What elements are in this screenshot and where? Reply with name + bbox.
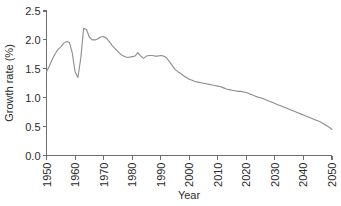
y-tick-label: 1.0 <box>25 92 40 104</box>
x-tick-label: 1950 <box>41 163 53 187</box>
y-tick-label: 2.5 <box>25 5 40 17</box>
growth-rate-line-chart: 0.00.51.01.52.02.5 195019601970198019902… <box>0 0 341 206</box>
x-tick-label: 2010 <box>212 163 224 187</box>
chart-canvas: 0.00.51.01.52.02.5 195019601970198019902… <box>0 0 341 206</box>
y-axis-tick-labels: 0.00.51.01.52.02.5 <box>25 5 40 162</box>
x-tick-label: 2040 <box>297 163 309 187</box>
x-tick-label: 2020 <box>240 163 252 187</box>
y-tick-label: 1.5 <box>25 63 40 75</box>
y-axis-group: 0.00.51.01.52.02.5 <box>25 5 46 162</box>
y-tick-label: 0.5 <box>25 121 40 133</box>
x-tick-label: 2000 <box>183 163 195 187</box>
x-tick-label: 1990 <box>155 163 167 187</box>
x-tick-label: 1980 <box>126 163 138 187</box>
y-axis-title: Growth rate (%) <box>3 44 15 122</box>
x-tick-label: 1970 <box>98 163 110 187</box>
x-tick-label: 2030 <box>269 163 281 187</box>
series-line-growth-rate <box>47 28 333 129</box>
y-tick-label: 0.0 <box>25 150 40 162</box>
x-tick-label: 1960 <box>69 163 81 187</box>
x-axis-group: 1950196019701980199020002010202020302040… <box>41 156 339 187</box>
x-axis-tick-labels: 1950196019701980199020002010202020302040… <box>41 163 339 187</box>
plot-series-group <box>47 28 333 129</box>
x-tick-label: 2050 <box>326 163 338 187</box>
x-axis-title: Year <box>178 189 201 201</box>
y-tick-label: 2.0 <box>25 34 40 46</box>
